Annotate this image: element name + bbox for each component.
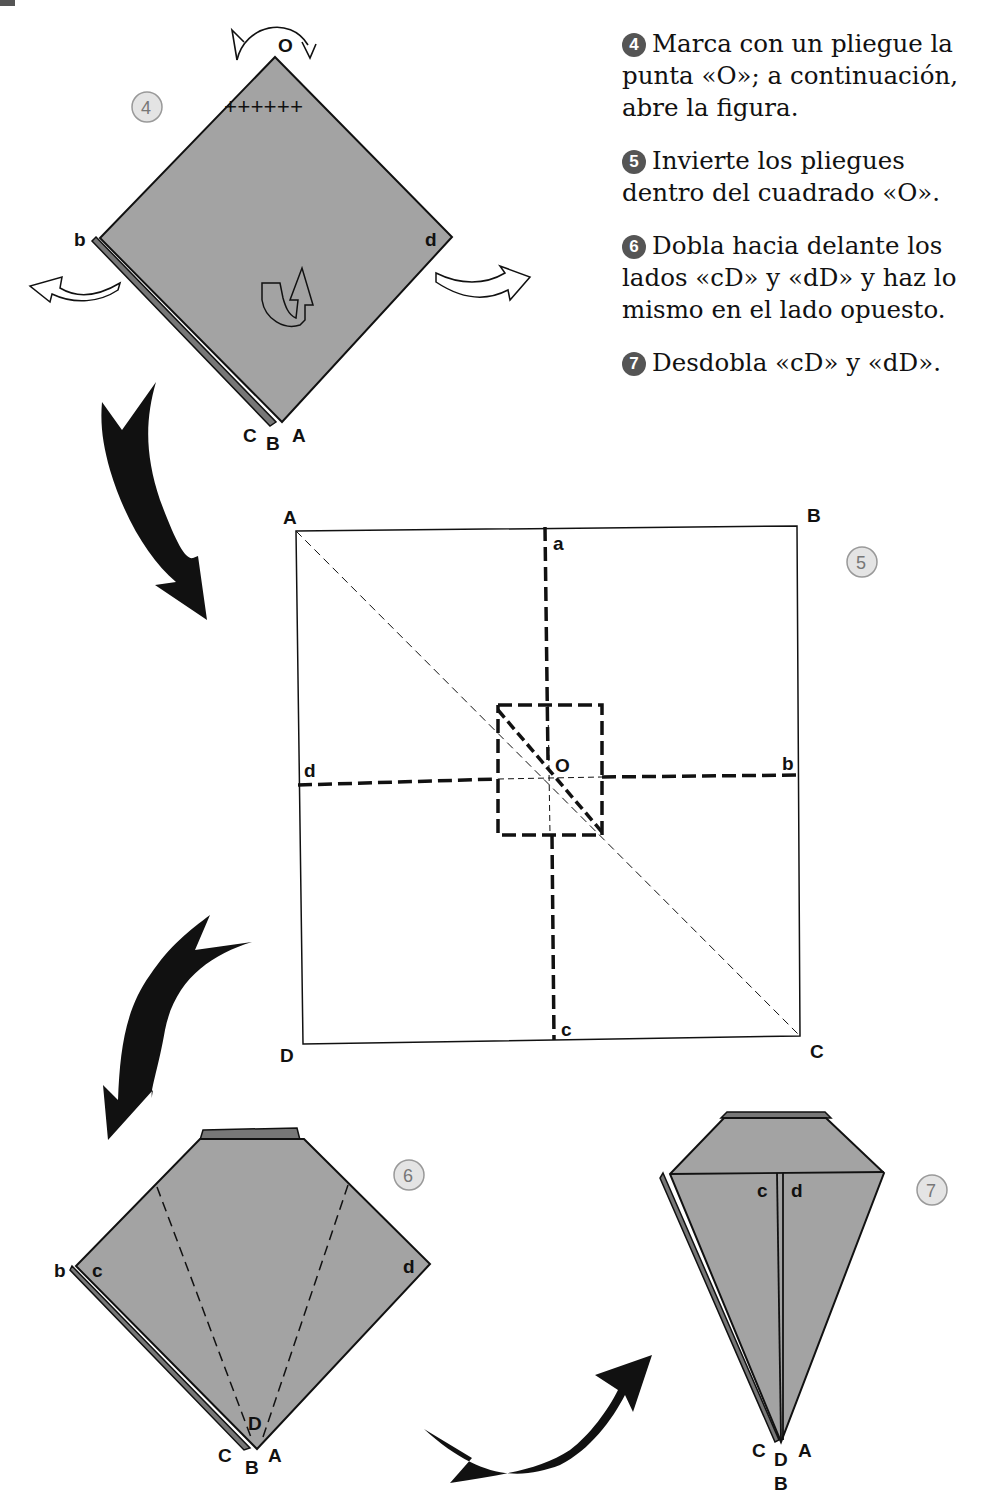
- svg-text:c: c: [92, 1260, 103, 1281]
- flow-arrow-6-to-7-icon: [424, 1355, 652, 1483]
- svg-text:B: B: [266, 433, 280, 454]
- svg-text:A: A: [268, 1445, 282, 1466]
- label-D: D: [280, 1045, 294, 1066]
- step7-figure: c d C D A B 7: [660, 1112, 947, 1494]
- instruction-step-7: 7Desdobla «cD» y «dD».: [622, 347, 992, 379]
- fold-back-arrow-icon: [237, 27, 308, 60]
- svg-text:A: A: [292, 425, 306, 446]
- step-badge: 6: [622, 235, 646, 259]
- label-B: B: [807, 505, 821, 526]
- instructions-panel: 4Marca con un pliegue la punta «O»; a co…: [622, 28, 992, 400]
- svg-text:4: 4: [141, 98, 151, 118]
- label-b: b: [74, 229, 86, 250]
- label-A: A: [283, 507, 297, 528]
- svg-text:C: C: [218, 1445, 232, 1466]
- svg-text:a: a: [553, 533, 564, 554]
- svg-text:d: d: [304, 760, 316, 781]
- step6-figure: b c d D C B A 6: [54, 1128, 430, 1478]
- svg-text:c: c: [561, 1019, 572, 1040]
- step-badge: 4: [622, 33, 646, 57]
- step-badge: 7: [622, 352, 646, 376]
- step-badge: 5: [622, 150, 646, 174]
- label-d: d: [425, 229, 437, 250]
- svg-text:B: B: [245, 1457, 259, 1478]
- label-C: C: [810, 1041, 824, 1062]
- svg-text:D: D: [248, 1413, 262, 1434]
- svg-text:d: d: [791, 1180, 803, 1201]
- instruction-step-5: 5Invierte los pliegues dentro del cuadra…: [622, 145, 992, 209]
- open-left-arrow-icon: [30, 277, 120, 302]
- svg-text:7: 7: [926, 1181, 936, 1201]
- svg-text:c: c: [757, 1180, 768, 1201]
- svg-text:6: 6: [403, 1166, 413, 1186]
- svg-text:b: b: [54, 1260, 66, 1281]
- crease-marks: ++++++: [224, 96, 303, 121]
- svg-text:D: D: [774, 1449, 788, 1470]
- flow-arrow-5-to-6-icon: [103, 915, 252, 1140]
- svg-text:A: A: [798, 1440, 812, 1461]
- svg-text:b: b: [782, 753, 794, 774]
- step5-figure: A B C D a b c d O 5: [280, 505, 877, 1066]
- instruction-step-4: 4Marca con un pliegue la punta «O»; a co…: [622, 28, 992, 124]
- instruction-step-6: 6Dobla hacia delante los lados «cD» y «d…: [622, 230, 992, 326]
- svg-text:C: C: [243, 425, 257, 446]
- flow-arrow-4-to-5-icon: [101, 382, 207, 620]
- step4-figure: ++++++ O 4 b d C B A: [30, 27, 530, 454]
- svg-text:5: 5: [856, 553, 866, 573]
- svg-text:C: C: [752, 1440, 766, 1461]
- svg-text:B: B: [774, 1473, 788, 1494]
- label-O: O: [278, 35, 293, 56]
- svg-text:d: d: [403, 1256, 415, 1277]
- label-O: O: [555, 755, 570, 776]
- open-right-arrow-icon: [436, 266, 530, 300]
